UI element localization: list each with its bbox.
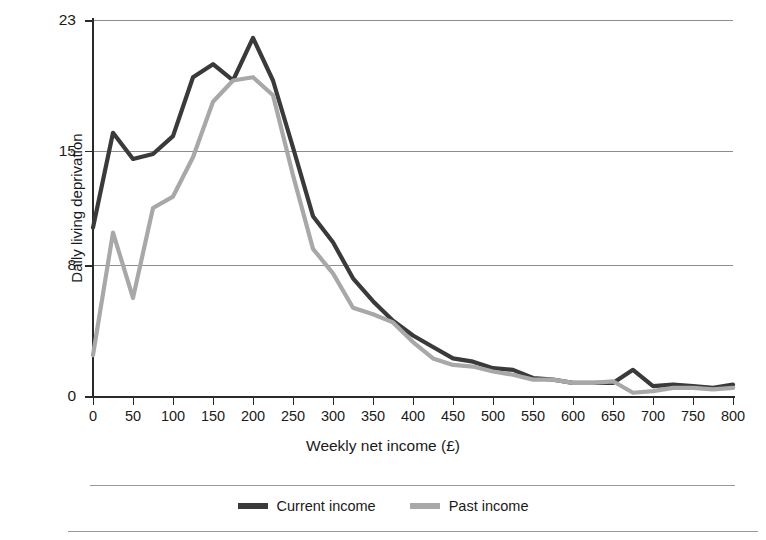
- x-axis-tick: [493, 397, 494, 405]
- x-axis-tick: [333, 397, 334, 405]
- x-axis-tick-label: 750: [681, 408, 705, 424]
- x-axis-tick: [413, 397, 414, 405]
- legend-item[interactable]: Current income: [238, 498, 376, 514]
- x-axis-tick-label: 600: [561, 408, 585, 424]
- x-axis-tick-label: 400: [401, 408, 425, 424]
- y-axis-title: Daily living deprivation: [68, 133, 85, 282]
- x-axis-tick-label: 800: [721, 408, 745, 424]
- x-axis-tick-label: 450: [441, 408, 465, 424]
- x-axis-tick: [693, 397, 694, 405]
- x-axis-tick: [213, 397, 214, 405]
- x-axis-tick-label: 300: [321, 408, 345, 424]
- legend-divider-bottom: [68, 531, 758, 532]
- series-line: [93, 77, 733, 393]
- x-axis-tick-label: 650: [601, 408, 625, 424]
- x-axis-tick: [373, 397, 374, 405]
- x-axis-tick-label: 250: [281, 408, 305, 424]
- legend-label: Current income: [277, 498, 376, 514]
- x-axis-tick-label: 500: [481, 408, 505, 424]
- legend-swatch-icon: [238, 503, 268, 509]
- plot-area: [93, 20, 733, 396]
- x-axis-tick: [133, 397, 134, 405]
- chart-legend: Current incomePast income: [0, 498, 766, 514]
- x-axis-tick-label: 100: [161, 408, 185, 424]
- x-axis-tick: [653, 397, 654, 405]
- x-axis-tick: [93, 397, 94, 405]
- x-axis-title: Weekly net income (£): [0, 437, 766, 455]
- y-axis-tick-label: 23: [16, 11, 85, 29]
- x-axis-tick: [733, 397, 734, 405]
- x-axis-tick: [293, 397, 294, 405]
- x-axis-tick-label: 700: [641, 408, 665, 424]
- x-axis-tick: [533, 397, 534, 405]
- x-axis-tick-label: 50: [125, 408, 141, 424]
- series-line: [93, 38, 733, 388]
- x-axis-tick: [453, 397, 454, 405]
- legend-divider-top: [90, 485, 735, 486]
- chart-figure: 081523 050100150200250300350400450500550…: [0, 0, 766, 540]
- legend-label: Past income: [449, 498, 529, 514]
- x-axis-tick-label: 550: [521, 408, 545, 424]
- x-axis-tick: [613, 397, 614, 405]
- y-axis-tick: [85, 151, 93, 153]
- y-axis-tick: [85, 265, 93, 267]
- x-axis-tick: [573, 397, 574, 405]
- legend-item[interactable]: Past income: [410, 498, 529, 514]
- x-axis-tick-label: 150: [201, 408, 225, 424]
- y-axis-tick: [85, 20, 93, 22]
- x-axis-tick-label: 200: [241, 408, 265, 424]
- x-axis-tick: [253, 397, 254, 405]
- series-lines: [93, 20, 733, 396]
- x-axis-tick-label: 0: [89, 408, 97, 424]
- y-axis-tick: [85, 396, 93, 398]
- x-axis-tick: [173, 397, 174, 405]
- x-axis-tick-label: 350: [361, 408, 385, 424]
- y-axis-tick-label: 0: [16, 387, 85, 405]
- legend-swatch-icon: [410, 503, 440, 509]
